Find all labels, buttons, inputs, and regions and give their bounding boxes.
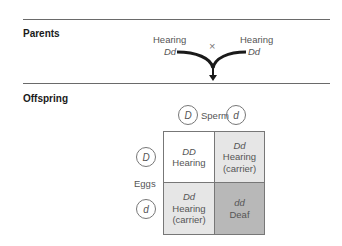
cell-phenotype: Hearing (172, 203, 205, 214)
cell-genotype: dd (234, 197, 245, 208)
cell-note: (carrier) (172, 214, 205, 225)
eggs-label: Eggs (134, 179, 156, 189)
cell-phenotype: Hearing (223, 151, 256, 162)
sperm-allele-d: d (226, 105, 246, 125)
cell-genotype: DD (182, 146, 196, 157)
egg-allele-d: d (136, 199, 156, 219)
sperm-label: Sperm (201, 111, 229, 121)
punnett-square: DD Hearing Dd Hearing (carrier) Dd Heari… (163, 131, 265, 235)
cell-dd: dd Deaf (215, 183, 264, 234)
cell-Dd-top: Dd Hearing (carrier) (215, 132, 264, 183)
cell-genotype: Dd (183, 191, 195, 202)
cell-genotype: Dd (233, 140, 245, 151)
cell-phenotype: Hearing (172, 157, 205, 168)
cell-note: (carrier) (223, 163, 256, 174)
cell-phenotype: Deaf (229, 209, 249, 220)
cell-DD: DD Hearing (164, 132, 215, 183)
sperm-allele-D: D (178, 105, 198, 125)
egg-allele-D: D (136, 147, 156, 167)
cell-Dd-bottom: Dd Hearing (carrier) (164, 183, 215, 234)
